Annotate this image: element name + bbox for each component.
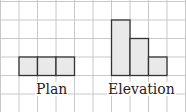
plan-label: Plan [35,82,68,96]
elevation-view [112,20,168,76]
plan-view [19,57,75,76]
elevation-label: Elevation [107,82,176,96]
